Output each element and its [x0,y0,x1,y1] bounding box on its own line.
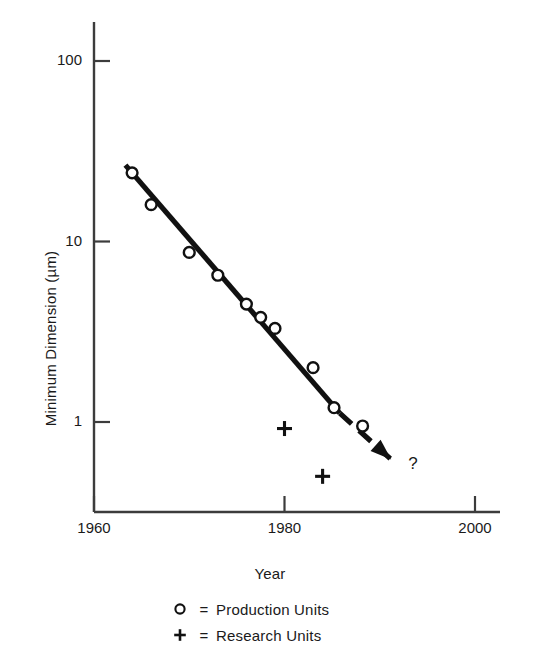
legend-item-production: = Production Units [168,596,540,622]
data-point-circle [270,323,281,334]
legend-label-research: Research Units [216,627,321,644]
axis-ticks [94,61,475,512]
circle-marker-icon [168,602,192,616]
trend-line-solid [125,165,339,413]
data-point-circle [184,247,195,258]
legend-item-research: = Research Units [168,622,540,648]
chart-legend: = Production Units = Research Units [0,596,540,648]
legend-equals-production: = [192,601,216,618]
data-point-circle [357,421,368,432]
question-mark-annotation: ? [408,454,417,473]
data-point-circle [146,199,157,210]
data-point-circle [241,299,252,310]
data-point-plus [277,421,292,436]
data-point-circle [127,167,138,178]
data-point-circle [212,270,223,281]
chart-annotations: ? [408,454,417,473]
plus-marker-icon [168,628,192,642]
data-points [127,167,368,483]
data-point-circle [329,402,340,413]
plot-area: ? [0,0,540,652]
data-point-circle [255,312,266,323]
data-point-circle [308,362,319,373]
axes [94,22,500,512]
legend-equals-research: = [192,627,216,644]
legend-label-production: Production Units [216,601,329,618]
trend-arrow-head [371,440,392,460]
data-point-plus [315,469,330,484]
chart-figure: Minimum Dimension (µm) Year 100101196019… [0,0,540,652]
